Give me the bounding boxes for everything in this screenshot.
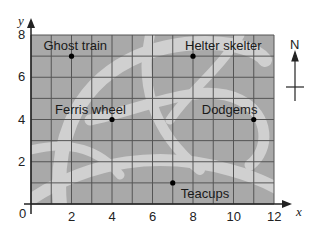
y-tick-label: 8 (18, 28, 25, 41)
location-point (109, 117, 114, 122)
y-axis-arrow-icon (27, 18, 35, 28)
location-point (69, 54, 74, 59)
x-tick-label: 10 (227, 210, 241, 223)
location-label: Helter skelter (185, 39, 262, 52)
y-tick-label: 2 (18, 155, 25, 168)
location-label: Dodgems (202, 103, 258, 116)
location-point (170, 180, 175, 185)
fairground-map: y x 0 N 246810122468 Ghost trainHelter s… (0, 0, 319, 236)
north-arrow-icon (286, 52, 304, 101)
x-tick-label: 6 (149, 210, 156, 223)
location-point (251, 117, 256, 122)
location-label: Teacups (181, 187, 229, 200)
origin-label: 0 (19, 207, 26, 220)
location-point (190, 54, 195, 59)
x-axis-label: x (296, 205, 302, 218)
coordinate-grid (0, 0, 319, 236)
location-label: Ferris wheel (55, 103, 126, 116)
location-label: Ghost train (44, 39, 108, 52)
compass-north-label: N (290, 38, 299, 51)
x-tick-label: 12 (267, 210, 281, 223)
y-axis-label: y (18, 14, 24, 27)
y-tick-label: 6 (18, 70, 25, 83)
x-tick-label: 2 (68, 210, 75, 223)
x-tick-label: 4 (109, 210, 116, 223)
x-tick-label: 8 (190, 210, 197, 223)
x-axis-arrow-icon (282, 200, 292, 208)
y-tick-label: 4 (18, 113, 25, 126)
